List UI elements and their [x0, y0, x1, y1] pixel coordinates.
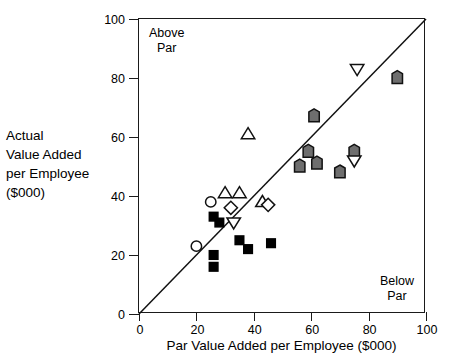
y-tick-20: 20: [129, 255, 139, 256]
data-point-triangle-up-1: [233, 187, 246, 198]
y-tick-80: 80: [129, 78, 139, 79]
y-tick-label-20: 20: [111, 248, 125, 264]
data-point-pentagon-1: [303, 144, 313, 157]
y-tick-label-60: 60: [111, 130, 125, 146]
series-triangle-down: [227, 65, 364, 229]
y-tick-label-100: 100: [104, 12, 125, 28]
data-point-square-0: [209, 263, 218, 272]
data-point-circle-1: [206, 197, 216, 207]
x-tick-label-40: 40: [235, 322, 275, 338]
scatter-chart-figure: Actual Value Added per Employee ($000) A…: [0, 0, 449, 360]
data-point-pentagon-0: [295, 159, 305, 172]
series-triangle-up: [218, 128, 269, 207]
markers-group: [191, 65, 402, 272]
data-point-pentagon-2: [309, 109, 319, 122]
data-point-triangle-up-0: [218, 187, 231, 198]
data-point-pentagon-5: [349, 144, 359, 157]
data-point-pentagon-3: [312, 156, 322, 169]
parity-line-segment: [139, 19, 426, 314]
series-pentagon: [295, 71, 403, 178]
data-point-pentagon-4: [335, 165, 345, 178]
series-circle: [191, 197, 216, 252]
data-point-triangle-down-0: [227, 218, 240, 229]
y-axis-title: Actual Value Added per Employee ($000): [6, 126, 126, 202]
y-tick-label-80: 80: [111, 71, 125, 87]
data-point-diamond-0: [224, 201, 237, 214]
parity-line: [139, 19, 426, 314]
y-tick-40: 40: [129, 196, 139, 197]
data-point-triangle-up-2: [241, 128, 254, 139]
x-tick-label-60: 60: [292, 322, 332, 338]
data-point-square-1: [209, 251, 218, 260]
y-axis-title-line-3: per Employee: [6, 164, 126, 183]
x-tick-100: 100: [426, 312, 427, 321]
series-square: [209, 212, 275, 271]
x-tick-label-80: 80: [350, 322, 390, 338]
data-point-circle-0: [191, 241, 201, 251]
data-point-triangle-down-1: [348, 156, 361, 167]
plot-area: Above Par Below Par 020406080100 0204060…: [138, 18, 425, 313]
data-point-square-3: [215, 218, 224, 227]
data-point-square-5: [244, 245, 253, 254]
y-tick-100: 100: [129, 19, 139, 20]
data-point-square-4: [235, 236, 244, 245]
y-tick-60: 60: [129, 137, 139, 138]
y-tick-0: 0: [129, 314, 139, 315]
x-tick-label-0: 0: [120, 322, 160, 338]
data-marker-layer: [139, 19, 426, 314]
x-tick-label-100: 100: [407, 322, 447, 338]
y-tick-label-0: 0: [118, 307, 125, 323]
y-axis-title-line-2: Value Added: [6, 145, 126, 164]
data-point-triangle-down-2: [350, 65, 363, 76]
x-tick-label-20: 20: [177, 322, 217, 338]
data-point-square-6: [267, 239, 276, 248]
y-axis-title-line-1: Actual: [6, 126, 126, 145]
data-point-pentagon-6: [392, 71, 402, 84]
y-axis-title-line-4: ($000): [6, 183, 126, 202]
x-axis-title: Par Value Added per Employee ($000): [138, 338, 425, 353]
y-tick-label-40: 40: [111, 189, 125, 205]
